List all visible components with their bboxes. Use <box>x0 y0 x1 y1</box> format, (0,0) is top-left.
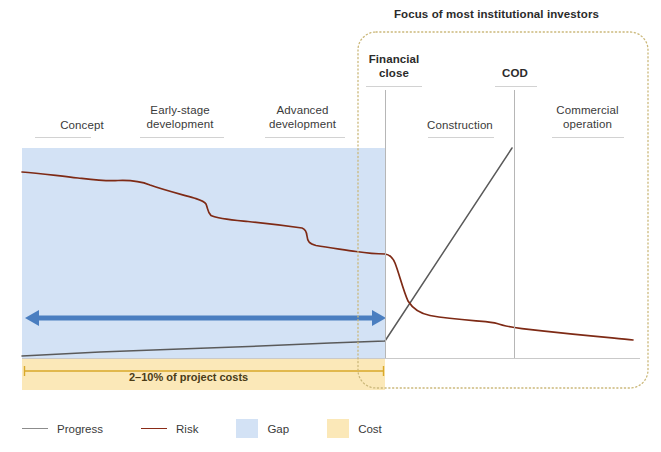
phase-label-construction: Construction <box>400 118 520 132</box>
phase-underline-concept <box>35 137 91 138</box>
legend-label-risk: Risk <box>176 423 198 435</box>
phase-underline-advanced-development <box>265 137 345 138</box>
phase-label-early-stage-development: Early-stage development <box>120 103 240 131</box>
legend-item-cost: Cost <box>327 419 382 438</box>
phase-label-commercial-operation: Commercial operation <box>530 103 645 131</box>
milestone-label-cod: COD <box>487 66 543 80</box>
phase-underline-construction <box>428 137 494 138</box>
legend-swatch-gap-icon <box>236 419 258 438</box>
milestone-label-financial-close: Financial close <box>358 52 430 80</box>
figure-canvas: Focus of most institutional investors Fi… <box>0 0 661 452</box>
legend-item-risk: Risk <box>141 423 198 435</box>
phase-label-advanced-development: Advanced development <box>245 103 360 131</box>
legend-line-progress-icon <box>22 428 48 429</box>
legend-swatch-cost-icon <box>327 419 349 438</box>
legend-label-cost: Cost <box>358 423 382 435</box>
phase-underline-commercial-operation <box>552 137 624 138</box>
milestone-underline-financial-close <box>366 86 422 87</box>
legend-label-progress: Progress <box>57 423 103 435</box>
legend-label-gap: Gap <box>267 423 289 435</box>
chart-vector-layer <box>0 0 661 452</box>
legend-line-risk-icon <box>141 428 167 429</box>
legend-item-progress: Progress <box>22 423 103 435</box>
focus-box-title: Focus of most institutional investors <box>394 8 599 20</box>
milestone-underline-cod <box>495 86 537 87</box>
cost-band-label: 2–10% of project costs <box>129 371 248 383</box>
legend: Progress Risk Gap Cost <box>22 419 382 438</box>
phase-underline-early-stage-development <box>140 137 224 138</box>
legend-item-gap: Gap <box>236 419 289 438</box>
gap-band <box>22 148 385 358</box>
